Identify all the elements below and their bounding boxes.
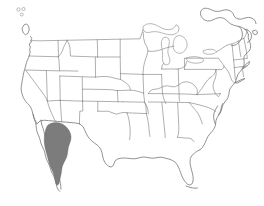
state-border-la-ms: [146, 114, 150, 137]
state-border-sd-ne: [96, 76, 121, 79]
state-border-me-canada: [244, 29, 247, 38]
state-border-mi-west-shore: [162, 64, 164, 69]
state-border-ny-nj: [224, 67, 233, 83]
state-border-pa-md-de: [216, 67, 224, 70]
lake-superior-outline: [143, 24, 179, 35]
state-border-tn-south: [148, 102, 189, 103]
state-border-ny-new-england: [232, 44, 235, 80]
state-border-sc-nc: [189, 103, 215, 112]
range-map-figure: [0, 0, 264, 206]
offshore-islands-group: [17, 7, 25, 16]
canada-northern-outline: [200, 8, 256, 34]
state-border-al-ga: [177, 102, 178, 137]
state-border-wy-south: [60, 76, 96, 77]
state-border-ms-al: [162, 102, 165, 137]
state-border-ok-tx: [98, 111, 127, 114]
state-border-mi-upper-peninsula: [148, 46, 174, 51]
state-border-mt-wy: [67, 40, 98, 57]
state-border-tx-la: [127, 113, 130, 140]
state-border-co-nm: [60, 100, 82, 101]
map-canvas: [0, 0, 264, 206]
state-border-nv-ut: [46, 71, 47, 101]
state-border-tn-ky: [148, 94, 197, 95]
lake-ontario-outline: [203, 49, 216, 54]
us-southern-border-gulf-coast-outline: [80, 124, 201, 185]
island-icon: [17, 8, 20, 11]
state-border-ma-north: [234, 58, 248, 60]
state-border-ia-mo: [117, 90, 143, 93]
state-border-nv-ca: [26, 70, 48, 101]
state-border-ks-mo: [117, 91, 118, 102]
lake-erie-outline: [186, 57, 204, 64]
state-border-wa-or: [29, 56, 59, 57]
state-border-az-ca: [47, 101, 55, 122]
state-border-nm-tx: [80, 101, 83, 124]
continental-west-coast-outline: [21, 37, 37, 124]
island-icon: [20, 13, 23, 16]
state-border-ne-ks: [83, 89, 118, 90]
lake-huron-outline: [173, 35, 187, 53]
vancouver-island-outline: [22, 24, 29, 35]
newfoundland-island-outline: [253, 30, 257, 35]
state-border-ut-az: [47, 100, 60, 101]
lake-michigan-outline: [161, 37, 170, 65]
state-border-mn-wi: [143, 32, 148, 74]
state-border-ar-ms: [145, 102, 147, 113]
state-border-ks-ok: [83, 101, 123, 102]
florida-keys-outline: [186, 186, 198, 188]
gulf-of-st-lawrence-outline: [232, 26, 243, 45]
state-border-plains-east: [120, 39, 130, 90]
state-border-vt-nh: [238, 41, 240, 57]
island-icon: [22, 7, 25, 10]
state-border-ia-il: [143, 74, 144, 93]
state-border-oh-mi: [178, 62, 186, 69]
state-border-id-mt-wy: [58, 40, 78, 71]
state-border-az-nm: [60, 100, 62, 121]
state-border-wv-md-pa: [184, 69, 216, 78]
state-border-nc-va: [197, 94, 220, 95]
state-border-va-wv: [197, 78, 210, 95]
us-east-coast-outline: [200, 35, 251, 150]
us-canada-border-line: [31, 30, 143, 41]
state-border-ar-la: [127, 113, 146, 114]
state-border-or-south: [26, 70, 60, 71]
state-border-mn-ia: [120, 74, 143, 75]
state-border-ga-fl: [177, 137, 193, 141]
state-border-ky-north-ohio-river: [148, 82, 197, 95]
state-border-ga-sc: [189, 103, 202, 124]
state-border-il-in: [162, 74, 166, 103]
shaded-range-region: [44, 123, 71, 186]
